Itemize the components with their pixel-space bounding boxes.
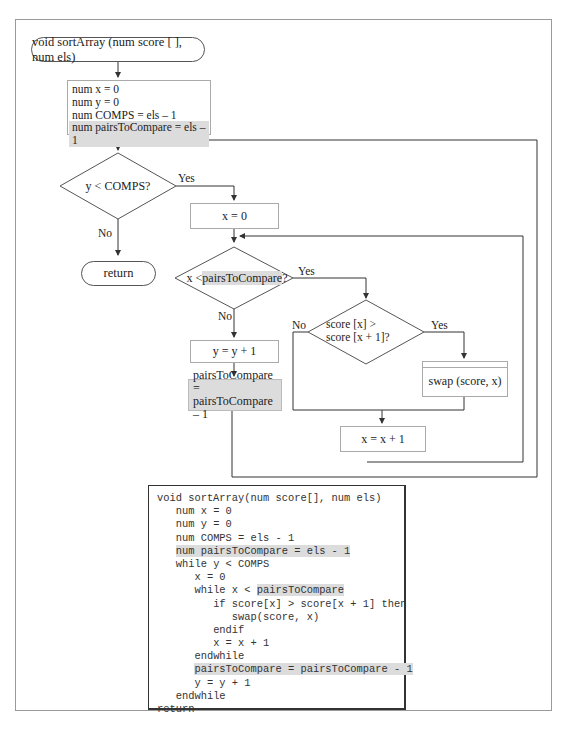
compare-decision-label: score [x] > score [x + 1]? [326,318,406,344]
increment-x-box: x = x + 1 [340,426,426,452]
code-line: if score[x] > score[x + 1] then [157,598,396,611]
decrement-pairs-box: pairsToCompare = pairsToCompare – 1 [188,379,282,411]
inner-decision-suffix: ? [282,271,287,285]
code-line: num COMPS = els - 1 [157,532,396,545]
return-terminal: return [81,261,156,286]
outer-yes-label: Yes [178,172,195,184]
code-line-highlighted: pairsToCompare = pairsToCompare - 1 [157,663,396,676]
swap-process-label: swap (score, x) [429,374,502,389]
code-line: void sortArray(num score[], num els) [157,492,396,505]
return-terminal-label: return [104,266,134,281]
pseudocode-box: void sortArray(num score[], num els) num… [148,485,406,710]
reset-x-label: x = 0 [222,209,247,224]
inner-decision-highlight: pairsToCompare [202,271,282,285]
compare-line: score [x + 1]? [326,331,406,344]
init-process-box: num x = 0 num y = 0 num COMPS = els – 1 … [67,80,211,135]
swap-process-box: swap (score, x) [422,361,508,397]
code-line: endwhile [157,650,396,663]
code-line: return [157,703,396,716]
increment-x-label: x = x + 1 [361,432,405,447]
start-terminal: void sortArray (num score [ ], num els) [31,37,205,62]
init-line-highlighted: num pairsToCompare = els – 1 [69,121,209,147]
code-line: endif [157,624,396,637]
decrement-pairs-line: pairsToCompare = [193,369,281,395]
code-line: num x = 0 [157,505,396,518]
init-line: num y = 0 [72,96,206,109]
decrement-pairs-line: pairsToCompare – 1 [193,395,281,421]
compare-line: score [x] > [326,318,406,331]
code-line: num y = 0 [157,518,396,531]
increment-y-box: y = y + 1 [190,340,279,363]
outer-no-label: No [98,227,112,239]
code-line-highlighted: while x < pairsToCompare [157,584,396,597]
inner-decision-label: x <pairsToCompare? [182,271,292,285]
inner-yes-label: Yes [298,265,315,277]
code-line: y = y + 1 [157,677,396,690]
inner-no-label: No [218,310,232,322]
code-line: x = x + 1 [157,637,396,650]
init-line: num COMPS = els – 1 [72,109,206,122]
code-line: swap(score, x) [157,611,396,624]
compare-yes-label: Yes [431,319,448,331]
code-line: while y < COMPS [157,558,396,571]
compare-no-label: No [292,319,306,331]
code-line-highlighted: num pairsToCompare = els - 1 [157,545,396,558]
init-line: num x = 0 [72,83,206,96]
outer-decision-label: y < COMPS? [78,179,158,193]
increment-y-label: y = y + 1 [213,344,257,359]
reset-x-box: x = 0 [190,203,279,229]
swap-box-band [423,367,507,368]
inner-decision-prefix: x < [187,271,203,285]
code-line: endwhile [157,690,396,703]
code-line: x = 0 [157,571,396,584]
start-terminal-label: void sortArray (num score [ ], num els) [32,35,204,65]
